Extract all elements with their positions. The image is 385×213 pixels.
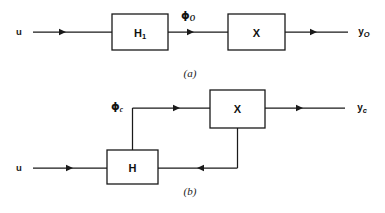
output-label-b: yc [357,102,368,115]
block-x-closed-label: X [234,103,242,115]
input-label-b: u [12,161,26,175]
block-diagram-figure: H1 ϕO X yO (a) H [0,0,385,213]
signal-label-phi-closed: ϕc [111,100,124,114]
block-h-label: H [129,162,137,174]
arrowhead-feedback [197,165,204,171]
input-label-a: u [12,25,26,39]
block-x-open-label: X [253,27,261,39]
caption-a: (a) [184,67,197,80]
arrowhead-phi-o [187,29,194,35]
arrowhead-output-b [296,105,303,111]
arrowhead-input-b [66,165,73,171]
diagram-canvas: H1 ϕO X yO (a) H [0,0,385,213]
arrowhead-input-a [59,29,66,35]
arrowhead-output-a [310,29,317,35]
panel-a-group: H1 ϕO X yO (a) [33,9,370,81]
signal-label-phi-open: ϕO [181,9,196,23]
output-label-a: yO [358,26,370,39]
arrowhead-phi-c [173,105,180,111]
panel-b-group: H ϕc X yc (b) [33,90,368,198]
caption-b: (b) [184,185,197,198]
